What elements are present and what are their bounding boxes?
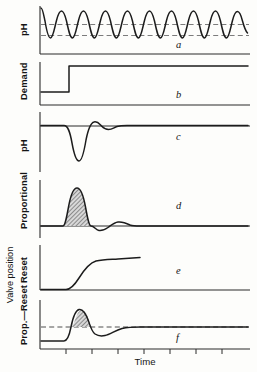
panel-f-y-label: Prop.—Reset [18,285,29,345]
panel-a-letter: a [176,39,181,50]
valve-position-group-label: Valve position [5,247,15,304]
panel-d-letter: d [176,200,182,211]
panel-c-y-label: pH [18,139,29,152]
panel-e-letter: e [176,265,181,276]
panel-e-y-label: Reset [18,257,29,283]
control-response-figure: pH a Demand b pH c Proportional d Reset … [0,0,257,372]
panel-c-letter: c [176,131,181,142]
panel-b-letter: b [176,89,181,100]
figure-background [0,0,257,372]
panel-a-y-label: pH [18,23,29,36]
x-axis-label: Time [135,356,156,367]
panel-d-y-label: Proportional [18,172,29,229]
panel-b-y-label: Demand [18,62,29,100]
